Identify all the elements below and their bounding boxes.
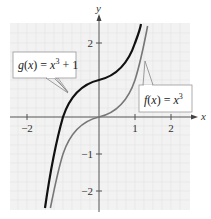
x-axis-arrow-icon (191, 115, 198, 120)
x-axis-label: x (200, 110, 206, 122)
cubic-graph: −2 1 2 2 −1 −2 x y g(x) = x3 + 1 f(x) = … (0, 0, 211, 219)
y-axis-arrow-icon (97, 14, 102, 21)
tick-label-x-1: 1 (132, 122, 138, 134)
tick-label-y-neg1: −1 (81, 148, 93, 160)
y-axis-label: y (95, 2, 101, 14)
tick-label-y-neg2: −2 (81, 185, 93, 197)
g-function-label: g(x) = x3 + 1 (18, 57, 78, 72)
tick-label-y-2: 2 (88, 37, 94, 49)
tick-label-x-neg2: −2 (21, 122, 33, 134)
tick-label-x-2: 2 (168, 122, 174, 134)
f-function-label: f(x) = x3 (144, 92, 183, 107)
